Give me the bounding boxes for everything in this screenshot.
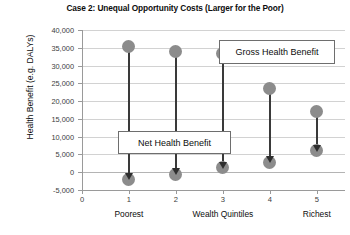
x-tick-mark <box>129 190 130 194</box>
x-tick-label: 2 <box>156 195 196 204</box>
gross-benefit-marker[interactable] <box>263 82 276 95</box>
gridline <box>82 154 345 155</box>
x-tick-mark <box>176 190 177 194</box>
y-axis-line <box>82 30 83 191</box>
gross-benefit-marker[interactable] <box>169 45 182 58</box>
x-tick-label: 0 <box>62 195 102 204</box>
arrowhead-icon <box>219 162 227 169</box>
connector-stem <box>128 46 129 175</box>
y-tick-mark <box>78 83 83 84</box>
y-tick-mark <box>78 48 83 49</box>
y-tick-label: 5,000 <box>2 150 74 159</box>
y-tick-label: 0 <box>2 168 74 177</box>
arrowhead-icon <box>125 173 133 180</box>
y-tick-label: 25,000 <box>2 79 74 88</box>
gridline <box>82 83 345 84</box>
y-tick-mark <box>78 154 83 155</box>
y-tick-label: -5,000 <box>2 186 74 195</box>
x-category-label: Richest <box>267 209 350 219</box>
connector-stem <box>269 89 270 159</box>
y-tick-mark <box>78 30 83 31</box>
x-tick-mark <box>270 190 271 194</box>
y-tick-label: 10,000 <box>2 133 74 142</box>
x-tick-mark <box>223 190 224 194</box>
chart-title: Case 2: Unequal Opportunity Costs (Large… <box>0 3 350 13</box>
gridline <box>82 101 345 102</box>
x-tick-label: 3 <box>203 195 243 204</box>
y-tick-label: 15,000 <box>2 115 74 124</box>
y-tick-label: 40,000 <box>2 26 74 35</box>
arrowhead-icon <box>266 156 274 163</box>
gross-benefit-marker[interactable] <box>122 40 135 53</box>
chart-container: Case 2: Unequal Opportunity Costs (Large… <box>0 0 350 235</box>
x-tick-label: 1 <box>109 195 149 204</box>
y-tick-label: 35,000 <box>2 44 74 53</box>
y-tick-mark <box>78 172 83 173</box>
y-tick-mark <box>78 119 83 120</box>
x-tick-label: 4 <box>250 195 290 204</box>
gridline <box>82 172 345 173</box>
x-tick-label: 5 <box>297 195 337 204</box>
x-category-label: Poorest <box>79 209 179 219</box>
y-tick-mark <box>78 137 83 138</box>
y-tick-label: 30,000 <box>2 62 74 71</box>
x-tick-mark <box>82 190 83 194</box>
gridline <box>82 66 345 67</box>
y-tick-mark <box>78 101 83 102</box>
arrowhead-icon <box>313 145 321 152</box>
gridline <box>82 119 345 120</box>
annotation-net-health-benefit: Net Health Benefit <box>118 131 231 154</box>
gridline <box>82 190 345 191</box>
gross-benefit-marker[interactable] <box>310 105 323 118</box>
gridline <box>82 30 345 31</box>
y-tick-mark <box>78 66 83 67</box>
x-tick-mark <box>317 190 318 194</box>
x-category-label: Wealth Quintiles <box>173 209 273 219</box>
y-tick-label: 20,000 <box>2 97 74 106</box>
arrowhead-icon <box>172 168 180 175</box>
annotation-gross-health-benefit: Gross Health Benefit <box>219 40 335 64</box>
